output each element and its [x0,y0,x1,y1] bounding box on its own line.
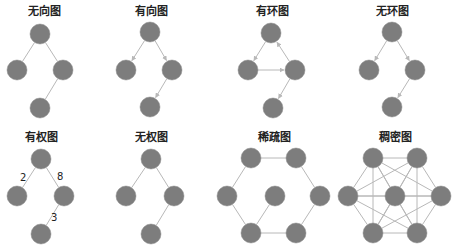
directed-edge [277,42,290,61]
edge-weight-label: 3 [51,213,57,223]
edge [354,204,368,224]
edge-weight-label: 8 [57,172,63,182]
graph-node [431,186,451,206]
panel-title-undirected: 无向图 [28,6,61,18]
directed-edge [398,78,410,97]
directed-edge [254,41,266,60]
edge [45,79,58,100]
edge [301,166,314,187]
panel-title-directed: 有向图 [135,6,168,18]
edge [301,204,314,224]
panel-title-weighted: 有权图 [25,132,58,144]
panel-title-unweighted: 无权图 [135,132,168,144]
graph-node [54,186,74,206]
graph-node [141,224,161,244]
graph-node [7,186,27,206]
graph-panel-undirected [7,24,73,118]
graph-panel-directed [116,22,182,117]
graph-node [363,223,383,243]
graph-node [116,186,136,206]
graph-node [30,24,50,44]
edge [353,166,367,187]
graph-node [7,60,27,80]
graph-panel-sparse [217,148,330,243]
panel-title-acyclic: 无环图 [376,6,409,18]
graph-node [359,60,379,80]
edge [45,42,57,61]
edge [22,42,34,61]
graph-node [116,60,136,80]
directed-edge [375,41,387,61]
graph-node [241,223,261,243]
graph-node [405,60,425,80]
graph-node [338,186,358,206]
graph-node [31,149,51,169]
graph-node [217,186,237,206]
graph-node [382,97,402,117]
graph-panel-unweighted [116,149,184,244]
graph-node [140,97,160,117]
graph-node [263,98,283,118]
edge [422,204,435,224]
graph-node [310,186,330,206]
graph-types-diagram [0,0,456,250]
graph-panel-dense [338,148,451,243]
graph-node [164,186,184,206]
graph-panel-weighted [7,149,74,244]
directed-edge [156,79,167,98]
graph-node [30,98,50,118]
graph-node [261,23,281,43]
edge [378,205,390,225]
graph-panel-cyclic [238,23,305,118]
graph-node [385,186,405,206]
graph-node [141,149,161,169]
graph-node [162,60,182,80]
directed-edge [397,41,409,61]
directed-edge [132,40,145,60]
edge [156,205,169,226]
graph-node [407,148,427,168]
edge [156,167,168,187]
panel-title-sparse: 稀疏图 [258,132,291,144]
graph-node [31,224,51,244]
graph-panel-acyclic [359,22,425,117]
edge [422,166,435,187]
graph-node [382,22,402,42]
graph-node [285,60,305,80]
graph-node [286,223,306,243]
panel-title-cyclic: 有环图 [256,6,289,18]
graph-types-figure: 无向图有向图有环图无环图有权图283无权图稀疏图稠密图 [0,0,456,250]
edge [132,167,146,187]
panel-title-dense: 稠密图 [379,132,412,144]
graph-node [140,22,160,42]
graph-node [407,223,427,243]
edge [256,204,269,224]
directed-edge [155,41,166,61]
graph-node [363,148,383,168]
directed-edge [279,79,290,99]
graph-node [238,60,258,80]
graph-node [286,148,306,168]
edge [232,204,245,224]
graph-node [241,148,261,168]
graph-node [53,60,73,80]
edge-weight-label: 2 [20,173,26,183]
graph-node [265,186,285,206]
edge [232,166,245,187]
